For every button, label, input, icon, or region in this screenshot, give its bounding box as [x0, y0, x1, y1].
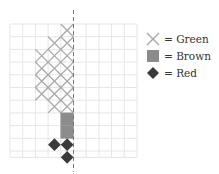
brown-square-region [61, 113, 74, 138]
legend-item-brown: = Brown [146, 48, 219, 64]
legend: = Green = Brown = Red [146, 31, 219, 82]
x-mark-icon [146, 32, 160, 46]
legend-label-brown: = Brown [164, 50, 211, 62]
green-x-region [35, 24, 73, 113]
legend-item-green: = Green [146, 31, 219, 47]
legend-label-red: = Red [164, 67, 197, 79]
grid-canvas [0, 0, 219, 174]
legend-item-red: = Red [146, 65, 219, 81]
square-icon [146, 49, 160, 63]
diamond-icon [146, 66, 160, 80]
legend-label-green: = Green [164, 33, 209, 45]
pattern-diagram [0, 0, 219, 174]
